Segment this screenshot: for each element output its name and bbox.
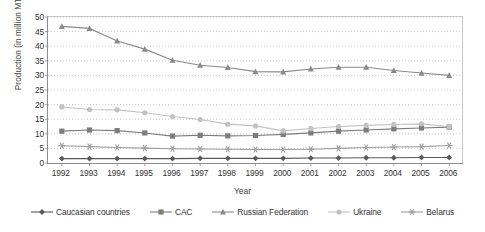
legend-item-russian-federation[interactable]: Russian Federation [212,207,308,217]
x-tick-label: 1995 [135,168,153,178]
data-point-square [253,133,258,138]
y-tick-label: 0 [18,158,44,168]
legend-marker-circle-icon [328,207,350,217]
data-point-diamond [59,156,65,162]
legend-marker-diamond-icon [31,207,53,217]
legend-label: Russian Federation [237,207,308,217]
y-tick-label: 5 [18,143,44,153]
data-point-square [198,133,203,138]
data-point-diamond [253,155,259,161]
legend-label: CAC [175,207,192,217]
y-tick-label: 15 [18,114,44,124]
x-tick-label: 2005 [411,168,429,178]
x-axis-title: Year [0,186,485,196]
legend-marker-triangle-icon [212,207,234,217]
data-point-circle [142,110,147,115]
data-point-asterisk [446,142,453,148]
x-tick-label: 2004 [384,168,402,178]
x-tick-label: 2006 [439,168,457,178]
data-point-circle [115,107,120,112]
data-point-asterisk [141,145,148,151]
data-point-square [115,128,120,133]
data-point-asterisk [390,144,397,150]
x-tick-label: 1993 [79,168,97,178]
data-point-asterisk [224,146,231,152]
data-point-asterisk [363,144,370,150]
y-tick-label: 30 [18,70,44,80]
data-point-diamond [391,155,397,161]
data-point-asterisk [335,145,342,151]
x-tick-label: 2003 [356,168,374,178]
data-point-diamond [170,156,176,162]
legend-marker-square-icon [150,207,172,217]
data-point-square [225,133,230,138]
data-point-diamond [336,155,342,161]
data-point-circle [59,104,64,109]
data-point-diamond [225,155,231,161]
data-point-circle [337,209,342,214]
data-point-circle [170,114,175,119]
legend-item-caucasian-countries[interactable]: Caucasian countries [31,207,130,217]
x-tick-label: 1998 [218,168,236,178]
legend-item-cac[interactable]: CAC [150,207,192,217]
y-tick-label: 10 [18,129,44,139]
data-point-diamond [419,155,425,161]
data-point-asterisk [114,144,121,150]
data-point-circle [419,121,424,126]
x-axis-tick-labels: 1992199319941995199619971998199920002001… [47,168,463,182]
data-point-square [87,127,92,132]
data-point-circle [87,107,92,112]
chart-container: Production (in million MT) 0510152025303… [0,0,485,232]
data-point-diamond [308,155,314,161]
data-point-square [59,129,64,134]
plot-area [47,17,463,164]
x-tick-label: 1996 [162,168,180,178]
series-line [62,26,449,75]
y-tick-label: 25 [18,85,44,95]
legend-label: Caucasian countries [56,207,130,217]
y-tick-label: 20 [18,100,44,110]
data-point-circle [198,117,203,122]
data-point-square [170,134,175,139]
y-tick-label: 35 [18,56,44,66]
data-point-asterisk [409,209,416,215]
data-point-asterisk [197,146,204,152]
x-tick-label: 1997 [190,168,208,178]
data-point-diamond [280,155,286,161]
data-point-diamond [363,155,369,161]
x-tick-label: 2000 [273,168,291,178]
data-point-circle [336,124,341,129]
chart-svg [48,17,463,163]
legend-label: Ukraine [353,207,381,217]
y-tick-label: 45 [18,27,44,37]
data-point-circle [364,123,369,128]
x-tick-label: 1992 [52,168,70,178]
data-point-asterisk [307,146,314,152]
data-point-square [336,129,341,134]
data-point-circle [225,122,230,127]
data-point-diamond [39,209,45,215]
x-tick-label: 1994 [107,168,125,178]
data-point-square [142,130,147,135]
x-tick-label: 2002 [328,168,346,178]
data-point-circle [308,126,313,131]
y-axis-tick-labels: 05101520253035404550 [16,10,44,168]
data-point-square [158,209,163,214]
legend-item-ukraine[interactable]: Ukraine [328,207,381,217]
data-point-asterisk [280,147,287,153]
data-point-circle [391,122,396,127]
legend-marker-asterisk-icon [401,207,423,217]
data-point-circle [447,124,452,129]
data-point-asterisk [58,143,65,149]
y-tick-label: 40 [18,41,44,51]
data-point-diamond [87,156,93,162]
legend-label: Belarus [426,207,454,217]
data-point-circle [253,123,258,128]
data-point-diamond [197,155,203,161]
legend-item-belarus[interactable]: Belarus [401,207,454,217]
data-point-circle [281,128,286,133]
data-point-asterisk [252,147,259,153]
data-point-diamond [142,156,148,162]
y-tick-label: 50 [18,12,44,22]
x-tick-label: 2001 [301,168,319,178]
